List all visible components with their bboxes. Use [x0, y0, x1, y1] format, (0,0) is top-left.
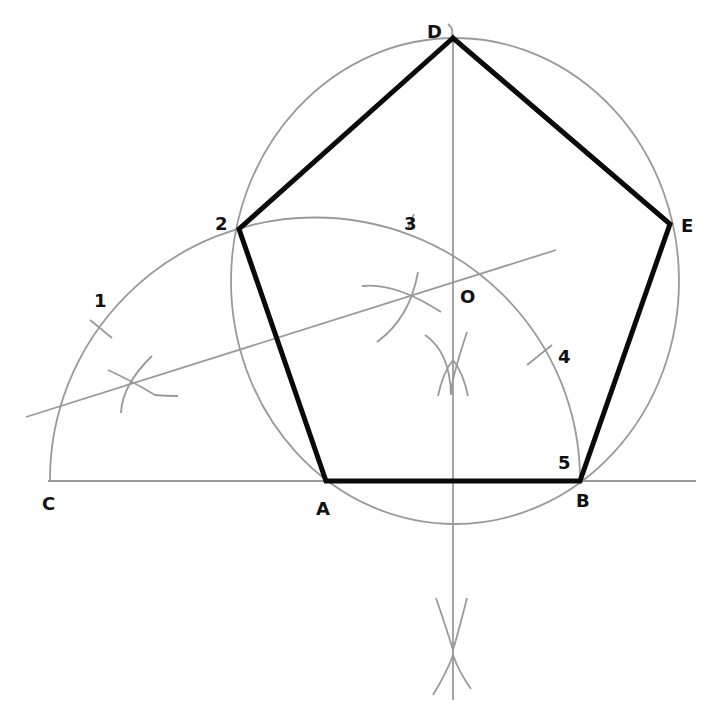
bisector-arc-center-b	[377, 272, 418, 342]
label-c: C	[42, 493, 55, 514]
bisector-arc-left-a	[108, 370, 178, 396]
label-3: 3	[404, 213, 417, 234]
perp-arcs-upper	[425, 332, 467, 395]
label-1: 1	[94, 290, 107, 311]
label-5: 5	[558, 452, 571, 473]
label-a: A	[316, 498, 330, 519]
pentagon-construction-diagram: C A B D E O 1 2 3 4 5	[0, 0, 719, 726]
pentagon	[239, 38, 670, 481]
label-e: E	[681, 215, 693, 236]
perp-arcs-lower-a	[436, 598, 467, 650]
label-2: 2	[215, 213, 228, 234]
perp-arcs-lower-b	[433, 655, 471, 695]
label-4: 4	[558, 346, 571, 367]
label-o: O	[460, 286, 475, 307]
label-d: D	[427, 21, 442, 42]
label-b: B	[576, 490, 590, 511]
